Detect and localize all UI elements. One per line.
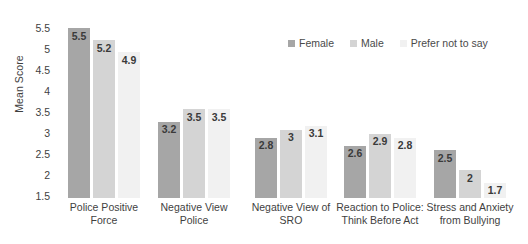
y-axis-tick: 2.5 (20, 148, 50, 160)
chart-legend: FemaleMalePrefer not to say (288, 37, 488, 49)
y-axis-tick: 2 (20, 169, 50, 181)
bar-value-label: 5.2 (97, 43, 112, 54)
x-axis-category-label-line: Police Positive (52, 201, 156, 214)
bar-value-label: 3.1 (309, 128, 324, 139)
y-axis-tick-labels: 5.554.543.532.521.5 (20, 10, 50, 198)
bar-chart: Mean Score 5.554.543.532.521.5 5.55.24.9… (0, 0, 528, 244)
bar-group: 5.55.24.9 (68, 10, 140, 198)
legend-item[interactable]: Male (350, 37, 384, 49)
bar-value-label: 2.6 (348, 148, 363, 159)
bar-value-label: 3 (288, 132, 294, 143)
x-axis-category-label-line: Reaction to Police: (328, 201, 432, 214)
legend-item[interactable]: Female (288, 37, 334, 49)
legend-swatch-icon (400, 40, 407, 47)
x-axis-category-label: Negative ViewPolice (142, 201, 246, 227)
bar-value-label: 2 (467, 173, 473, 184)
bar-rect (93, 40, 115, 198)
y-axis-tick: 3 (20, 127, 50, 139)
x-axis-category-label-line: Stress and Anxiety (418, 201, 522, 214)
x-axis-category-label-line: Negative View (142, 201, 246, 214)
bar-value-label: 3.5 (187, 112, 202, 123)
bar-rect (68, 28, 90, 198)
x-axis-category-labels: Police PositiveForceNegative ViewPoliceN… (56, 201, 522, 241)
x-axis-category-label: Reaction to Police:Think Before Act (328, 201, 432, 227)
y-axis-tick: 1.5 (20, 190, 50, 202)
y-axis-tick: 5.5 (20, 22, 50, 34)
y-axis-tick: 3.5 (20, 106, 50, 118)
bar-rect (118, 52, 140, 198)
bar-value-label: 1.7 (488, 185, 503, 196)
legend-swatch-icon (288, 40, 295, 47)
legend-label: Male (361, 37, 384, 49)
y-axis-tick: 4.5 (20, 64, 50, 76)
bar-value-label: 3.2 (162, 124, 177, 135)
bar-group: 3.23.53.5 (158, 10, 230, 198)
x-axis-category-label-line: Force (52, 214, 156, 227)
x-axis-category-label: Police PositiveForce (52, 201, 156, 227)
y-axis-tick: 4 (20, 85, 50, 97)
x-axis-category-label-line: Police (142, 214, 246, 227)
x-axis-category-label-line: Think Before Act (328, 214, 432, 227)
legend-label: Prefer not to say (411, 37, 488, 49)
bar-value-label: 3.5 (212, 112, 227, 123)
bar-value-label: 2.9 (373, 136, 388, 147)
legend-swatch-icon (350, 40, 357, 47)
bar-value-label: 2.5 (438, 153, 453, 164)
bar-value-label: 4.9 (122, 55, 137, 66)
legend-item[interactable]: Prefer not to say (400, 37, 488, 49)
x-axis-category-label-line: from Bullying (418, 214, 522, 227)
legend-label: Female (299, 37, 334, 49)
bar-value-label: 2.8 (259, 140, 274, 151)
bar-value-label: 5.5 (72, 31, 87, 42)
x-axis-category-label: Stress and Anxietyfrom Bullying (418, 201, 522, 227)
bar-value-label: 2.8 (398, 140, 413, 151)
y-axis-tick: 5 (20, 43, 50, 55)
